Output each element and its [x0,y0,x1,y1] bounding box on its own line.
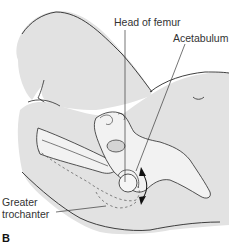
label-head-of-femur: Head of femur [114,16,181,28]
panel-label: B [2,232,10,244]
femoral-head [119,174,137,192]
label-greater-trochanter-line1: Greater [2,196,38,208]
label-acetabulum: Acetabulum [173,32,228,44]
label-greater-trochanter-line2: trochanter [2,208,49,220]
obturator-foramen [107,140,125,152]
